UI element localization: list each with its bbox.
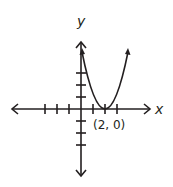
x-axis-label: x	[154, 101, 164, 117]
parabola-curve	[80, 48, 131, 109]
vertex-point-label: (2, 0)	[93, 118, 125, 132]
coordinate-plane: y x (2, 0)	[0, 0, 173, 187]
y-axis-label: y	[76, 13, 86, 29]
curve-right-arrow-icon	[125, 48, 131, 55]
